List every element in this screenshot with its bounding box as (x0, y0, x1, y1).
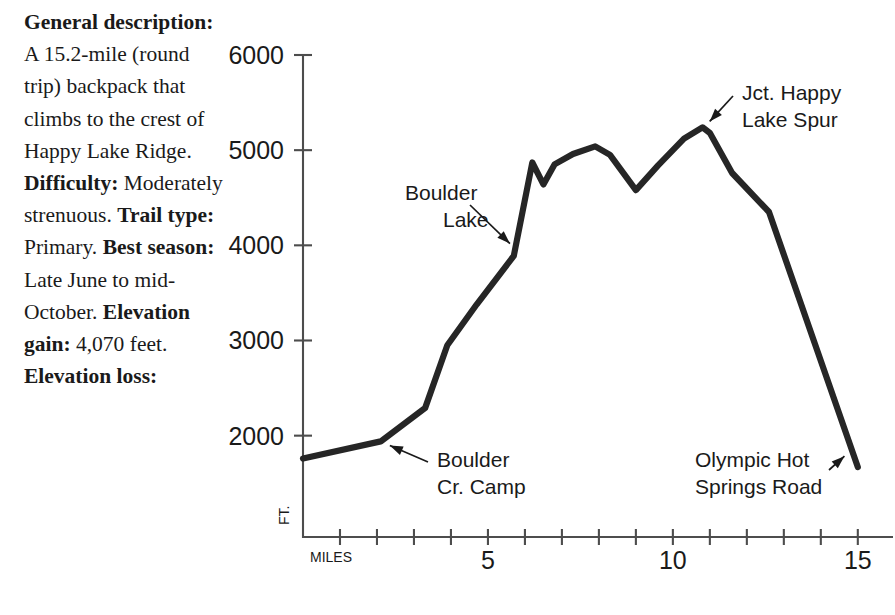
x-tick-label: 10 (659, 546, 687, 574)
annotation-label: Boulder (405, 181, 477, 204)
y-tick-label: 5000 (228, 136, 284, 164)
annotation-olympic-hot-springs-road: Olympic HotSprings Road (695, 448, 844, 498)
x-tick-label: 5 (481, 546, 495, 574)
annotation-label: Springs Road (695, 475, 822, 498)
annotation-boulder-lake: BoulderLake (405, 181, 510, 244)
annotation-label: Boulder (437, 448, 509, 471)
annotation-label: Lake (443, 208, 489, 231)
elevation-profile-page: General description: A 15.2-mile (round … (0, 0, 895, 615)
annotation-label: Cr. Camp (437, 475, 526, 498)
y-tick-label: 2000 (228, 422, 284, 450)
elevation-profile-line (303, 127, 858, 467)
elevation-profile-chart: 20003000400050006000 51015 FT. MILES Bou… (0, 0, 895, 615)
y-tick-label: 3000 (228, 326, 284, 354)
annotation-jct-happy-lake-spur: Jct. HappyLake Spur (710, 81, 842, 131)
annotation-label: Olympic Hot (695, 448, 810, 471)
y-axis-title: FT. (276, 506, 292, 525)
annotation-boulder-cr-camp: BoulderCr. Camp (390, 445, 526, 498)
y-axis-ticks: 20003000400050006000 (228, 41, 312, 450)
x-axis-ticks: 51015 (340, 529, 872, 574)
annotation-label: Lake Spur (742, 108, 838, 131)
annotation-label: Jct. Happy (742, 81, 842, 104)
annotation-arrowhead (390, 445, 404, 454)
y-tick-label: 6000 (228, 41, 284, 69)
x-tick-label: 15 (844, 546, 872, 574)
y-tick-label: 4000 (228, 231, 284, 259)
x-axis-title: MILES (310, 549, 352, 565)
chart-annotations: BoulderLakeBoulderCr. CampJct. HappyLake… (390, 81, 845, 498)
chart-svg: 20003000400050006000 51015 FT. MILES Bou… (0, 0, 895, 615)
